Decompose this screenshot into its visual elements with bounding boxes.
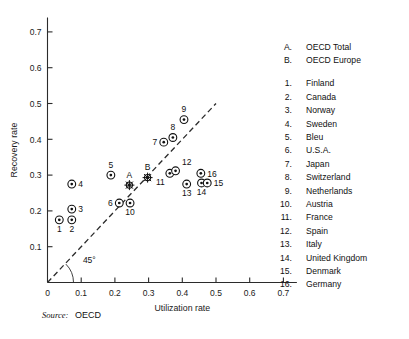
data-point: 4 (68, 179, 83, 189)
x-tick-label: 0.4 (176, 288, 188, 298)
data-point-label: 11 (156, 177, 165, 187)
data-point-label: 3 (78, 204, 83, 214)
marker-center-dot (70, 183, 73, 186)
data-point-label: B (145, 162, 151, 172)
data-point-label: 8 (170, 122, 175, 132)
data-point: 10 (125, 199, 135, 217)
x-tick-label: 0.6 (244, 288, 256, 298)
marker-center-dot (70, 219, 73, 222)
legend-label: Finland (306, 78, 334, 88)
y-tick-label: 0.2 (30, 206, 42, 216)
marker-center-dot (200, 182, 203, 185)
source-value: OECD (75, 310, 102, 320)
legend-key: 10. (280, 199, 292, 209)
legend-key: A. (284, 42, 292, 52)
data-point-label: 4 (78, 179, 83, 189)
legend-label: Norway (306, 105, 336, 115)
data-point: A (124, 170, 134, 191)
source-label: Source: (42, 310, 69, 320)
marker-center-dot (118, 202, 121, 205)
marker-center-dot (70, 208, 73, 211)
marker-center-dot (172, 136, 175, 139)
data-point-label: 5 (108, 160, 113, 170)
legend-key: 15. (280, 266, 292, 276)
legend-key: 2. (285, 92, 292, 102)
marker-center-dot (162, 141, 165, 144)
data-point-label: 7 (153, 137, 158, 147)
data-point: 6 (108, 198, 123, 208)
legend-label: Japan (306, 159, 330, 169)
data-point: 16 (197, 169, 217, 179)
legend-label: Denmark (306, 266, 342, 276)
legend-label: France (306, 212, 333, 222)
legend-label: Switzerland (306, 172, 351, 182)
data-point: 15 (203, 178, 223, 188)
legend-label: OECD Europe (306, 55, 361, 65)
data-point-label: 9 (182, 104, 187, 114)
marker-center-dot (110, 174, 113, 177)
legend-key: 9. (285, 186, 292, 196)
legend-label: Spain (306, 226, 328, 236)
y-axis-title: Recovery rate (9, 123, 19, 178)
legend-key: 8. (285, 172, 292, 182)
angle-arc (66, 264, 74, 282)
angle-annotation: 45° (83, 255, 96, 265)
data-point: 9 (180, 104, 188, 123)
data-point: 7 (153, 137, 168, 147)
marker-center-dot (174, 169, 177, 172)
y-tick-label: 0.7 (30, 27, 42, 37)
data-point: 2 (68, 216, 76, 234)
marker-center-dot (146, 176, 149, 179)
marker-center-dot (185, 183, 188, 186)
marker-center-dot (206, 182, 209, 185)
data-point-label: 6 (108, 198, 113, 208)
legend-key: 16. (280, 279, 292, 289)
legend-label: Italy (306, 239, 322, 249)
legend-key: 3. (285, 105, 292, 115)
data-point-label: A (127, 170, 133, 180)
legend-key: 13. (280, 239, 292, 249)
marker-center-dot (58, 219, 61, 222)
data-point: 12 (172, 157, 192, 175)
legend-label: Austria (306, 199, 333, 209)
legend-key: 14. (280, 253, 292, 263)
legend-label: Canada (306, 92, 336, 102)
legend-label: OECD Total (306, 42, 351, 52)
data-point-label: 14 (197, 187, 207, 197)
legend-label: Bleu (306, 132, 323, 142)
legend-key: 1. (285, 78, 292, 88)
x-tick-label: 0 (45, 288, 50, 298)
legend-key: 6. (285, 145, 292, 155)
data-point-label: 1 (57, 224, 62, 234)
data-point: 5 (107, 160, 115, 179)
marker-center-dot (168, 172, 171, 175)
y-tick-label: 0.5 (30, 99, 42, 109)
data-point: 3 (68, 204, 83, 214)
marker-center-dot (128, 184, 131, 187)
marker-center-dot (183, 118, 186, 121)
x-axis-title: Utilization rate (154, 303, 210, 313)
legend-key: 5. (285, 132, 292, 142)
data-point-label: 15 (214, 178, 224, 188)
y-tick-label: 0.6 (30, 63, 42, 73)
chart-canvas: 00.10.20.30.40.50.60.70.10.20.30.40.50.6… (0, 0, 409, 339)
data-point-label: 12 (182, 157, 192, 167)
legend-label: Sweden (306, 119, 337, 129)
legend-label: United Kingdom (306, 253, 367, 263)
marker-center-dot (199, 172, 202, 175)
y-tick-label: 0.4 (30, 135, 42, 145)
legend-key: 11. (281, 212, 292, 222)
data-point: 8 (169, 122, 177, 141)
legend-label: U.S.A. (306, 145, 331, 155)
data-point-label: 16 (207, 169, 217, 179)
scatter-figure: 00.10.20.30.40.50.60.70.10.20.30.40.50.6… (0, 0, 409, 339)
legend-label: Germany (306, 279, 342, 289)
x-tick-label: 0.3 (143, 288, 155, 298)
legend-key: 4. (285, 119, 292, 129)
data-point-label: 2 (69, 224, 74, 234)
data-point-label: 10 (125, 207, 135, 217)
legend-label: Netherlands (306, 186, 352, 196)
legend-key: B. (284, 55, 292, 65)
y-tick-label: 0.1 (30, 242, 42, 252)
data-point: 1 (55, 216, 63, 234)
